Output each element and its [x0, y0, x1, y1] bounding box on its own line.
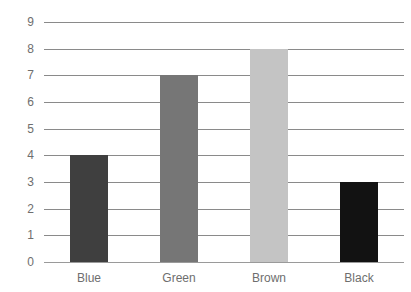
y-tick-label-9: 9 [0, 16, 34, 28]
x-tick-label-brown: Brown [224, 271, 314, 285]
gridline-0 [44, 262, 404, 263]
y-tick-label-5: 5 [0, 123, 34, 135]
gridline-7 [44, 75, 404, 76]
gridline-5 [44, 129, 404, 130]
gridline-9 [44, 22, 404, 23]
x-tick-label-blue: Blue [44, 271, 134, 285]
bar-brown [250, 49, 288, 262]
x-tick-label-green: Green [134, 271, 224, 285]
bar-chart: 9876543210 BlueGreenBrownBlack [0, 0, 411, 292]
y-tick-label-0: 0 [0, 256, 34, 268]
bar-blue [70, 155, 108, 262]
y-tick-label-7: 7 [0, 69, 34, 81]
x-tick-label-black: Black [314, 271, 404, 285]
y-tick-label-4: 4 [0, 149, 34, 161]
chart-title [0, 0, 411, 4]
y-tick-label-3: 3 [0, 176, 34, 188]
plot-area [44, 22, 404, 262]
y-tick-label-8: 8 [0, 43, 34, 55]
bar-green [160, 75, 198, 262]
y-tick-label-1: 1 [0, 229, 34, 241]
bar-black [340, 182, 378, 262]
gridline-8 [44, 49, 404, 50]
y-tick-label-6: 6 [0, 96, 34, 108]
gridline-6 [44, 102, 404, 103]
y-tick-label-2: 2 [0, 203, 34, 215]
